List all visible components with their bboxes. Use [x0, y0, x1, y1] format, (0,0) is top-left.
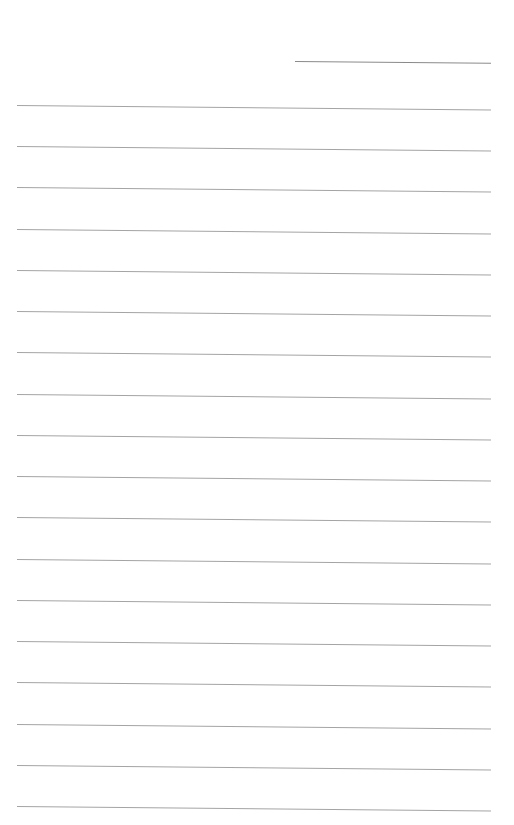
ruled-line [17, 187, 491, 193]
ruled-line [17, 641, 491, 647]
ruled-line [17, 765, 491, 771]
ruled-line [17, 476, 491, 482]
ruled-line [17, 394, 491, 400]
ruled-line [17, 806, 491, 812]
lined-paper-page [0, 0, 514, 825]
ruled-line [17, 724, 491, 730]
ruled-line [17, 559, 491, 565]
ruled-line [17, 311, 491, 317]
ruled-line [17, 600, 491, 606]
ruled-line [17, 352, 491, 358]
ruled-line [17, 270, 491, 276]
header-line [295, 61, 491, 64]
ruled-line [17, 229, 491, 235]
ruled-line [17, 517, 491, 523]
ruled-line [17, 146, 491, 152]
ruled-line [17, 105, 491, 111]
ruled-line [17, 682, 491, 688]
ruled-line [17, 435, 491, 441]
